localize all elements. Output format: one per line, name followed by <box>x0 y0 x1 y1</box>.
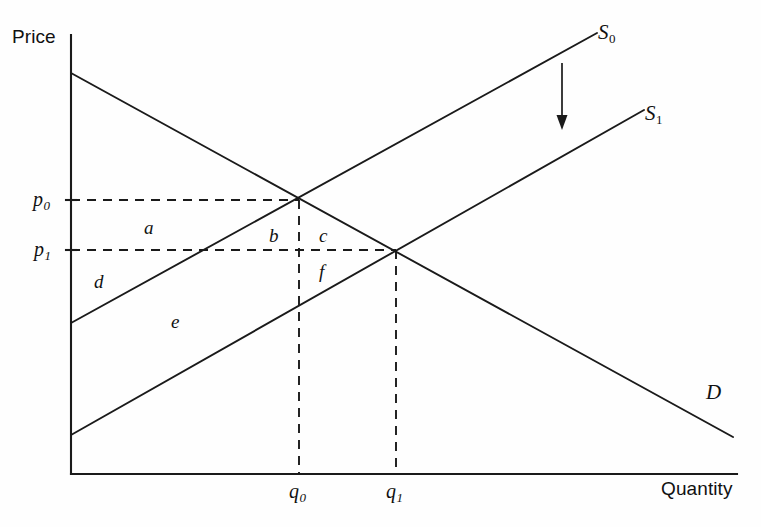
supply-demand-diagram: Price Quantity p0 p1 q0 q1 S0 S1 D a b c… <box>0 0 761 527</box>
price-tick-sub-p1: 1 <box>45 248 52 263</box>
demand-curve <box>71 73 733 437</box>
region-label-b: b <box>269 226 279 245</box>
supply-curve-s1 <box>71 110 644 435</box>
x-axis-label: Quantity <box>661 479 733 498</box>
region-label-a: a <box>144 218 154 237</box>
supply-curve-s0 <box>71 33 597 323</box>
region-label-f: f <box>319 262 324 281</box>
price-tick-sub-p0: 0 <box>44 198 51 213</box>
demand-curve-base: D <box>706 380 721 404</box>
quantity-tick-base-q1: q <box>386 480 396 502</box>
price-tick-base-p0: p <box>33 188 43 210</box>
price-tick-label-p0: p0 <box>33 189 50 209</box>
quantity-tick-sub-q0: 0 <box>300 490 307 505</box>
demand-curve-label: D <box>706 382 721 403</box>
supply-shift-arrow-head <box>557 115 568 130</box>
region-label-c: c <box>319 226 327 245</box>
supply-curve-s1-sub: 1 <box>656 112 663 127</box>
supply-curve-s1-label: S1 <box>645 103 662 124</box>
supply-curve-s0-label: S0 <box>598 22 615 43</box>
supply-curve-s1-base: S <box>645 101 656 125</box>
quantity-tick-sub-q1: 1 <box>397 490 404 505</box>
price-tick-label-p1: p1 <box>34 239 51 259</box>
y-axis-label: Price <box>12 27 56 46</box>
price-tick-base-p1: p <box>34 238 44 260</box>
supply-curve-s0-sub: 0 <box>609 31 616 46</box>
region-label-e: e <box>171 312 179 331</box>
quantity-tick-base-q0: q <box>289 480 299 502</box>
region-label-d: d <box>94 272 104 291</box>
diagram-canvas <box>0 0 761 527</box>
quantity-tick-label-q0: q0 <box>289 481 306 501</box>
supply-curve-s0-base: S <box>598 20 609 44</box>
quantity-tick-label-q1: q1 <box>386 481 403 501</box>
